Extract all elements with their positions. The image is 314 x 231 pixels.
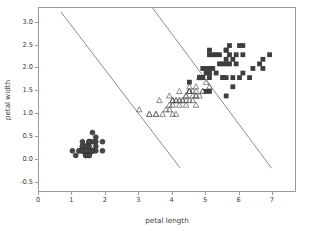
series-setosa	[70, 130, 105, 158]
data-point-versicolor	[177, 88, 183, 93]
data-point-virginica	[220, 75, 225, 80]
x-tick-mark	[272, 192, 273, 195]
data-point-virginica	[240, 43, 245, 48]
y-tick-mark	[35, 182, 38, 183]
y-tick-label: 0.5	[23, 133, 34, 140]
data-point-virginica	[230, 84, 235, 89]
chart-data-layer	[39, 8, 297, 193]
data-point-setosa	[93, 144, 98, 149]
data-point-virginica	[210, 52, 215, 57]
y-tick-mark	[35, 136, 38, 137]
x-tick-label: 0	[36, 197, 40, 204]
data-point-virginica	[230, 75, 235, 80]
y-tick-mark	[35, 113, 38, 114]
data-point-versicolor	[147, 111, 153, 116]
x-tick-label: 7	[270, 197, 274, 204]
data-point-virginica	[237, 75, 242, 80]
x-tick-mark	[239, 192, 240, 195]
data-point-versicolor	[157, 98, 163, 103]
data-point-virginica	[240, 71, 245, 76]
data-point-virginica	[247, 75, 252, 80]
series-versicolor	[136, 75, 212, 117]
data-point-virginica	[227, 43, 232, 48]
x-tick-mark	[71, 192, 72, 195]
data-point-setosa	[90, 130, 95, 135]
x-axis-label: petal length	[145, 216, 188, 225]
data-point-virginica	[207, 48, 212, 53]
x-tick-label: 4	[170, 197, 174, 204]
y-tick-label: 0.0	[23, 156, 34, 163]
data-point-setosa	[83, 153, 88, 158]
x-tick-mark	[38, 192, 39, 195]
data-point-virginica	[240, 52, 245, 57]
x-tick-mark	[205, 192, 206, 195]
data-point-setosa	[87, 139, 92, 144]
y-axis-label: petal width	[3, 80, 12, 120]
x-tick-mark	[172, 192, 173, 195]
data-point-setosa	[73, 153, 78, 158]
data-point-virginica	[261, 57, 266, 62]
y-tick-mark	[35, 67, 38, 68]
data-point-virginica	[267, 52, 272, 57]
data-point-virginica	[200, 66, 205, 71]
data-point-virginica	[257, 61, 262, 66]
y-tick-mark	[35, 45, 38, 46]
data-point-virginica	[204, 71, 209, 76]
data-point-virginica	[217, 61, 222, 66]
data-point-versicolor	[153, 111, 159, 116]
data-point-setosa	[83, 148, 88, 153]
data-point-virginica	[210, 66, 215, 71]
data-point-virginica	[214, 71, 219, 76]
data-point-versicolor	[136, 107, 142, 112]
data-point-virginica	[224, 94, 229, 99]
data-point-versicolor	[147, 111, 153, 116]
x-tick-label: 2	[103, 197, 107, 204]
y-tick-label: 1.0	[23, 110, 34, 117]
data-point-virginica	[224, 57, 229, 62]
y-tick-label: 1.5	[23, 87, 34, 94]
y-tick-mark	[35, 22, 38, 23]
data-point-virginica	[230, 57, 235, 62]
x-tick-label: 5	[203, 197, 207, 204]
data-point-setosa	[70, 148, 75, 153]
data-point-versicolor	[167, 93, 173, 98]
data-point-virginica	[207, 89, 212, 94]
data-point-versicolor	[153, 111, 159, 116]
data-point-virginica	[234, 61, 239, 66]
x-tick-label: 6	[236, 197, 240, 204]
x-tick-label: 1	[69, 197, 73, 204]
y-tick-label: 2.0	[23, 64, 34, 71]
x-tick-mark	[105, 192, 106, 195]
data-point-virginica	[187, 80, 192, 85]
data-point-virginica	[224, 61, 229, 66]
y-tick-mark	[35, 90, 38, 91]
data-point-virginica	[217, 52, 222, 57]
data-point-virginica	[261, 66, 266, 71]
y-tick-label: -0.5	[20, 179, 33, 186]
data-point-virginica	[227, 52, 232, 57]
x-tick-mark	[138, 192, 139, 195]
data-point-virginica	[207, 75, 212, 80]
scatter-chart-figure: 01234567-0.50.00.51.01.52.02.53.0 petal …	[0, 0, 314, 231]
y-tick-label: 3.0	[23, 18, 34, 25]
data-point-setosa	[100, 139, 105, 144]
data-point-setosa	[83, 144, 88, 149]
setosa-versicolor-boundary	[61, 12, 180, 168]
data-point-virginica	[197, 75, 202, 80]
data-point-setosa	[100, 148, 105, 153]
data-point-setosa	[80, 139, 85, 144]
x-tick-label: 3	[136, 197, 140, 204]
y-tick-label: 2.5	[23, 41, 34, 48]
data-point-setosa	[93, 135, 98, 140]
data-point-virginica	[224, 48, 229, 53]
data-point-virginica	[234, 52, 239, 57]
plot-frame	[38, 7, 296, 192]
series-virginica	[187, 43, 272, 98]
y-tick-mark	[35, 159, 38, 160]
data-point-virginica	[250, 66, 255, 71]
